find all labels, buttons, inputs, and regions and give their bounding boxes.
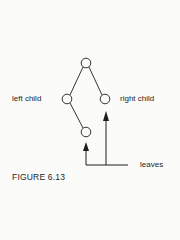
leaves-label: leaves — [140, 160, 163, 170]
arrowhead-up-icon — [103, 111, 109, 121]
left-child-label: left child — [12, 94, 41, 104]
node-root — [81, 58, 91, 68]
figure-caption: FIGURE 6.13 — [12, 172, 65, 182]
edge-root-left — [70, 67, 83, 95]
right-child-label: right child — [120, 94, 154, 104]
edge-left-leaf — [70, 103, 83, 128]
node-leaf-bottom — [81, 127, 91, 137]
arrowhead-up-icon — [83, 142, 89, 151]
node-right-child — [100, 94, 110, 104]
edge-root-right — [89, 67, 102, 95]
leaves-pointer-line — [86, 149, 128, 165]
node-left-child — [62, 94, 72, 104]
